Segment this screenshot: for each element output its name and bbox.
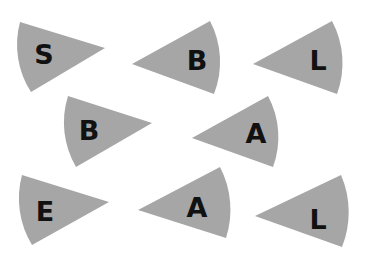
wedge-letter: L bbox=[309, 204, 326, 235]
wedge-letter: L bbox=[309, 45, 326, 76]
puzzle-canvas: SBLBAEAL bbox=[0, 0, 366, 260]
wedge-shape bbox=[253, 21, 343, 94]
letter-wedge-tile[interactable]: L bbox=[253, 21, 343, 94]
wedge-shape bbox=[17, 22, 105, 92]
letter-wedge-tile[interactable]: A bbox=[192, 96, 278, 167]
wedge-letter: A bbox=[187, 192, 208, 223]
letter-wedge-tile[interactable]: B bbox=[64, 96, 152, 167]
letter-wedge-tile[interactable]: A bbox=[138, 167, 230, 238]
wedge-letter: S bbox=[34, 39, 53, 70]
wedge-shape bbox=[138, 167, 230, 238]
wedge-letter: A bbox=[246, 118, 267, 149]
letter-wedge-tile[interactable]: S bbox=[17, 22, 105, 92]
wedge-shape bbox=[255, 175, 349, 247]
wedge-group: SBLBAEAL bbox=[17, 21, 349, 247]
letter-wedge-tile[interactable]: L bbox=[255, 175, 349, 247]
wedge-letter: B bbox=[79, 115, 100, 146]
letter-wedge-tile[interactable]: B bbox=[132, 21, 220, 94]
wedge-shape bbox=[19, 175, 109, 245]
wedge-shape bbox=[64, 96, 152, 167]
wedge-letter: B bbox=[187, 45, 208, 76]
wedge-letter: E bbox=[36, 196, 54, 227]
letter-wedge-tile[interactable]: E bbox=[19, 175, 109, 245]
